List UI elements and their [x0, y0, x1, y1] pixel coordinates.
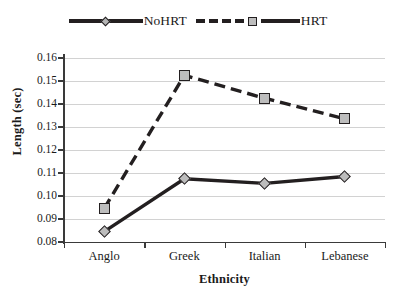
x-axis-title: Ethnicity [64, 272, 385, 287]
series-line-nohrt [104, 176, 345, 231]
data-point-hrt-anglo [99, 203, 110, 214]
x-tick-label-greek: Greek [144, 250, 224, 264]
x-tick-mark [144, 242, 145, 248]
x-tick-label-italian: Italian [225, 250, 305, 264]
x-tick-mark-end [64, 242, 65, 248]
data-point-hrt-italian [259, 93, 270, 104]
line-chart: NoHRT HRT Length (sec) 0.160.150.140.130… [0, 0, 396, 298]
x-tick-mark-end [385, 242, 386, 248]
data-point-hrt-greek [179, 70, 190, 81]
x-tick-label-lebanese: Lebanese [305, 250, 385, 264]
data-point-hrt-lebanese [339, 113, 350, 124]
x-tick-label-anglo: Anglo [64, 250, 144, 264]
series-line-hrt [104, 75, 345, 208]
x-tick-mark [305, 242, 306, 248]
x-tick-mark [225, 242, 226, 248]
